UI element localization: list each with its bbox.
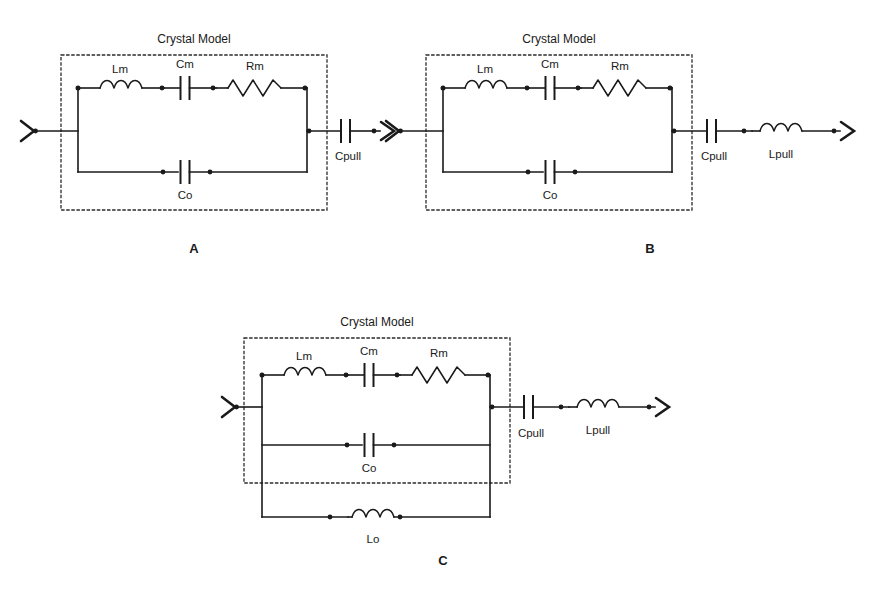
label-lm-b: Lm <box>477 63 493 75</box>
label-lo-c: Lo <box>367 533 380 545</box>
motional-arm-a: Lm Cm Rm <box>76 58 308 100</box>
label-co-a: Co <box>178 189 193 201</box>
label-rm-c: Rm <box>430 347 448 359</box>
figure-c: Crystal Model Lm Cm <box>222 315 669 568</box>
label-lpull-c: Lpull <box>586 424 610 436</box>
label-cm-a: Cm <box>176 58 194 70</box>
crystal-model-title-c: Crystal Model <box>340 315 413 329</box>
crystal-model-title-b: Crystal Model <box>522 32 595 46</box>
label-cm-b: Cm <box>541 58 559 70</box>
label-lm-a: Lm <box>112 63 128 75</box>
motional-arm-b: Lm Cm Rm <box>441 58 673 100</box>
label-lm-c: Lm <box>296 350 312 362</box>
input-terminal-a <box>21 121 78 141</box>
label-co-c: Co <box>362 462 377 474</box>
crystal-model-title-a: Crystal Model <box>157 32 230 46</box>
figure-caption-c: C <box>438 553 448 568</box>
label-rm-a: Rm <box>246 60 264 72</box>
label-co-b: Co <box>543 189 558 201</box>
crystal-model-box-a <box>61 55 327 210</box>
input-terminal-c <box>222 397 262 417</box>
shunt-arm-b: Co <box>443 160 672 201</box>
figure-sheet: Crystal Model Lm <box>0 0 891 593</box>
label-cpull-c: Cpull <box>518 427 544 439</box>
label-cm-c: Cm <box>360 345 378 357</box>
label-cpull-b: Cpull <box>701 150 727 162</box>
label-lpull-b: Lpull <box>769 148 793 160</box>
figure-b: Crystal Model Lm Cm <box>386 32 854 256</box>
motional-arm-c: Lm Cm Rm <box>260 345 491 387</box>
lpull-section-c: Lpull <box>569 398 669 436</box>
figure-caption-a: A <box>189 241 199 256</box>
cpull-section-b: Cpull <box>701 119 752 162</box>
figure-a: Crystal Model Lm <box>21 32 394 256</box>
circuit-diagram-canvas: Crystal Model Lm <box>0 0 891 593</box>
lpull-section-b: Lpull <box>752 122 854 160</box>
label-cpull-a: Cpull <box>335 150 361 162</box>
crystal-model-box-c <box>244 338 510 483</box>
figure-caption-b: B <box>645 241 654 256</box>
shunt-arm-co-c: Co <box>262 433 490 474</box>
cpull-section-c: Cpull <box>518 395 569 439</box>
crystal-model-box-b <box>426 55 692 210</box>
label-rm-b: Rm <box>611 60 629 72</box>
shunt-arm-a: Co <box>78 160 307 201</box>
shunt-arm-lo-c: Lo <box>262 510 490 546</box>
